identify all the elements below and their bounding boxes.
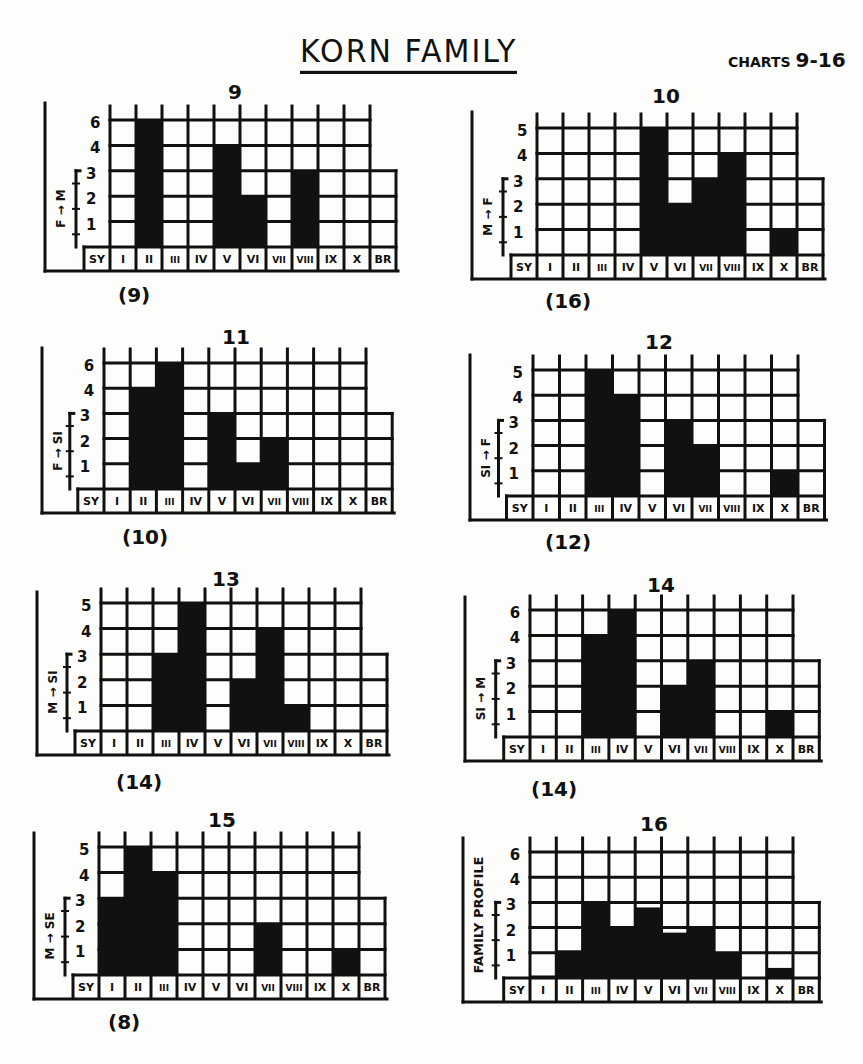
y-tick-label: 3 [80, 407, 90, 425]
category-label: II [565, 984, 573, 997]
category-label: IV [622, 261, 635, 274]
bar-VIII [283, 705, 309, 731]
bar-X [771, 230, 797, 255]
category-label: VI [236, 981, 249, 994]
category-label: X [776, 743, 785, 756]
y-tick-label: 4 [510, 871, 520, 889]
category-label: V [212, 981, 221, 994]
category-label: X [342, 981, 351, 994]
y-tick-label: 2 [506, 922, 516, 940]
y-tick-label: 4 [517, 147, 527, 165]
bar-VII [688, 928, 714, 978]
category-label: IV [189, 495, 202, 508]
category-label: II [565, 743, 573, 756]
category-label: VIII [296, 255, 313, 265]
y-tick-label: 6 [510, 604, 520, 622]
chart-title: 13 [212, 567, 240, 591]
y-axis-label: SI → M [474, 677, 488, 720]
category-label: IV [616, 743, 629, 756]
category-label: VI [668, 984, 681, 997]
category-label: I [112, 737, 116, 750]
bar-VI [240, 196, 266, 247]
y-tick-label: 4 [513, 389, 523, 407]
y-tick-label: 6 [90, 114, 100, 132]
category-label: VIII [723, 263, 740, 273]
category-label: IX [316, 737, 329, 750]
category-label: X [780, 261, 789, 274]
y-tick-label: 3 [86, 165, 96, 183]
category-label: III [591, 745, 601, 755]
y-tick-label: 6 [510, 846, 520, 864]
bar-II [130, 388, 156, 489]
category-label: II [136, 737, 144, 750]
chart-count: (9) [118, 283, 150, 307]
category-label: III [159, 983, 169, 993]
y-tick-label: 2 [506, 680, 516, 698]
category-label: VIII [292, 497, 309, 507]
y-tick-label: 3 [509, 414, 519, 432]
bar-III [586, 370, 613, 496]
category-label: VI [672, 502, 685, 515]
category-label: X [776, 984, 785, 997]
chart-title: 15 [208, 808, 236, 832]
bar-IV [613, 395, 640, 496]
y-tick-label: 6 [84, 357, 94, 375]
bar-VI [235, 464, 261, 489]
y-tick-label: 3 [75, 892, 85, 910]
category-label: BR [798, 984, 815, 997]
bar-VII [692, 446, 719, 496]
bar-I [530, 975, 556, 978]
y-tick-label: 1 [513, 224, 523, 242]
y-axis-label: F → SI [51, 431, 65, 471]
category-label: X [344, 737, 353, 750]
category-label: IV [619, 502, 632, 515]
category-label: VII [263, 739, 277, 749]
category-label: BR [364, 981, 381, 994]
category-label: VII [699, 263, 713, 273]
y-tick-label: 2 [513, 198, 523, 216]
category-label: VII [267, 497, 281, 507]
category-label: SY [516, 261, 533, 274]
y-axis-label: M → SI [46, 670, 60, 713]
bar-VI [662, 686, 688, 737]
y-tick-label: 5 [517, 122, 527, 140]
bar-II [556, 950, 582, 978]
chart-title: 12 [645, 330, 673, 354]
category-label: V [223, 253, 232, 266]
y-tick-label: 2 [509, 440, 519, 458]
category-label: V [648, 502, 657, 515]
category-label: BR [803, 502, 820, 515]
bar-IV [609, 610, 635, 737]
category-label: X [353, 253, 362, 266]
category-label: V [214, 737, 223, 750]
y-axis-label: M → SE [43, 912, 57, 959]
category-label: VIII [287, 739, 304, 749]
bar-VIII [714, 953, 740, 978]
category-label: II [572, 261, 580, 274]
y-axis-label: FAMILY PROFILE [471, 857, 486, 974]
y-tick-label: 5 [513, 364, 523, 382]
category-label: SY [512, 502, 529, 515]
category-label: SY [80, 737, 97, 750]
category-label: III [591, 986, 601, 996]
chart-count: (14) [531, 777, 577, 801]
category-label: SY [509, 984, 526, 997]
category-label: VI [242, 495, 255, 508]
bar-III [153, 654, 179, 731]
chart-count: (12) [545, 530, 591, 554]
category-label: II [139, 495, 147, 508]
category-label: X [349, 495, 358, 508]
category-label: IV [186, 737, 199, 750]
category-label: IX [747, 984, 760, 997]
category-label: VIII [719, 745, 736, 755]
y-tick-label: 2 [75, 918, 85, 936]
category-label: I [541, 743, 545, 756]
category-label: IX [320, 495, 333, 508]
subtitle-prefix: CHARTS [728, 54, 791, 70]
y-tick-label: 3 [506, 655, 516, 673]
category-label: III [170, 255, 180, 265]
y-tick-label: 4 [510, 629, 520, 647]
chart-title: 11 [222, 325, 250, 349]
chart-count: (10) [122, 525, 168, 549]
category-label: BR [802, 261, 819, 274]
